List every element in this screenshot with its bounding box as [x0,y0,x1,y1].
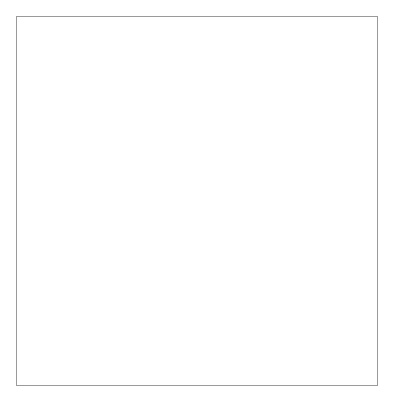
figure-border [16,16,378,386]
figure-container: 010,00020,00030,00040,00050,00060,000 [3… [0,0,403,402]
